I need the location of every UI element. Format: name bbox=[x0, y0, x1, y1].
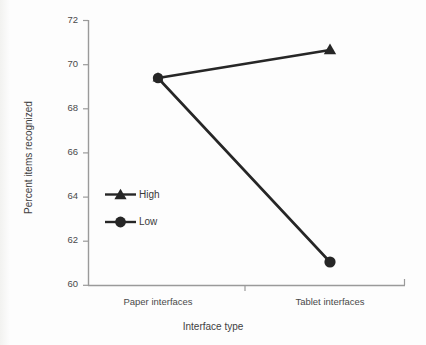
chart-figure: 72 70 68 66 64 62 60 Percent items recog… bbox=[0, 0, 426, 345]
y-axis-ticks bbox=[83, 21, 88, 286]
series-high-point-tablet bbox=[324, 44, 336, 55]
y-tick-label-72: 72 bbox=[52, 14, 78, 25]
y-tick-label-70: 70 bbox=[52, 58, 78, 69]
series-low bbox=[153, 73, 336, 268]
series-high-line bbox=[158, 50, 330, 78]
x-category-label-paper: Paper interfaces bbox=[108, 296, 208, 307]
x-category-label-tablet: Tablet interfaces bbox=[280, 296, 380, 307]
series-low-line bbox=[158, 78, 330, 262]
y-tick-label-62: 62 bbox=[52, 234, 78, 245]
series-low-point-tablet bbox=[324, 256, 335, 267]
x-axis-title: Interface type bbox=[0, 321, 426, 332]
legend-label-low: Low bbox=[139, 216, 157, 227]
line-chart-plot bbox=[0, 0, 426, 345]
y-tick-label-66: 66 bbox=[52, 146, 78, 157]
legend-label-high: High bbox=[139, 189, 160, 200]
circle-marker bbox=[115, 217, 126, 228]
y-tick-label-64: 64 bbox=[52, 190, 78, 201]
y-tick-label-68: 68 bbox=[52, 102, 78, 113]
series-high bbox=[153, 44, 337, 82]
legend-markers bbox=[105, 189, 136, 228]
y-tick-label-60: 60 bbox=[52, 278, 78, 289]
y-axis-title: Percent items recognized bbox=[23, 68, 34, 248]
